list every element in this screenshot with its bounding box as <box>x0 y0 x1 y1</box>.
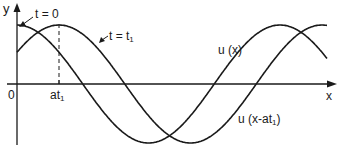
wave-diagram <box>0 0 340 155</box>
origin-label: 0 <box>8 89 15 101</box>
tick-label-main: at <box>50 88 60 102</box>
label-t0: t = 0 <box>35 8 59 20</box>
tick-label-at1: at1 <box>50 89 64 101</box>
label-u-shift-main: u (x-at <box>238 112 272 126</box>
label-u-shift-close: ) <box>276 112 280 126</box>
y-axis-arrow-icon <box>14 3 21 12</box>
x-axis-arrow-icon <box>327 81 337 88</box>
pointer-t0-arrowhead-icon <box>19 21 26 27</box>
y-axis-label: y <box>3 3 10 15</box>
label-u-x-minus-at1: u (x-at1) <box>238 113 280 125</box>
label-t1-sub: 1 <box>129 35 133 44</box>
label-t1: t = t1 <box>109 30 134 42</box>
label-u-x: u (x) <box>218 44 242 56</box>
x-axis-label: x <box>326 90 332 102</box>
tick-label-sub: 1 <box>60 94 64 103</box>
label-t1-main: t = t <box>109 29 129 43</box>
pointer-t1-arrowhead-icon <box>99 37 105 43</box>
